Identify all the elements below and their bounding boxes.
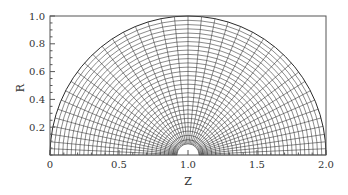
y-tick-labels: 0.20.40.60.81.0: [29, 11, 45, 133]
y-tick-label: 0.6: [29, 66, 45, 77]
x-tick-label: 2.0: [318, 159, 334, 170]
y-tick-label: 0.4: [29, 94, 45, 105]
x-tick-label: 0: [47, 159, 53, 170]
x-tick-label: 1.5: [249, 159, 265, 170]
mesh-chart: 00.51.01.52.0 0.20.40.60.81.0 Z R: [0, 0, 348, 195]
x-tick-label: 1.0: [180, 159, 196, 170]
polar-mesh: [50, 16, 326, 155]
y-tick-label: 0.2: [29, 122, 45, 133]
y-axis-label: R: [14, 83, 27, 92]
mesh-radial-line: [193, 32, 252, 145]
x-axis-label: Z: [184, 175, 192, 188]
y-tick-label: 0.8: [29, 38, 45, 49]
x-tick-labels: 00.51.01.52.0: [47, 159, 334, 170]
y-tick-label: 1.0: [29, 11, 45, 22]
mesh-radial-line: [123, 32, 182, 145]
x-tick-label: 0.5: [111, 159, 127, 170]
